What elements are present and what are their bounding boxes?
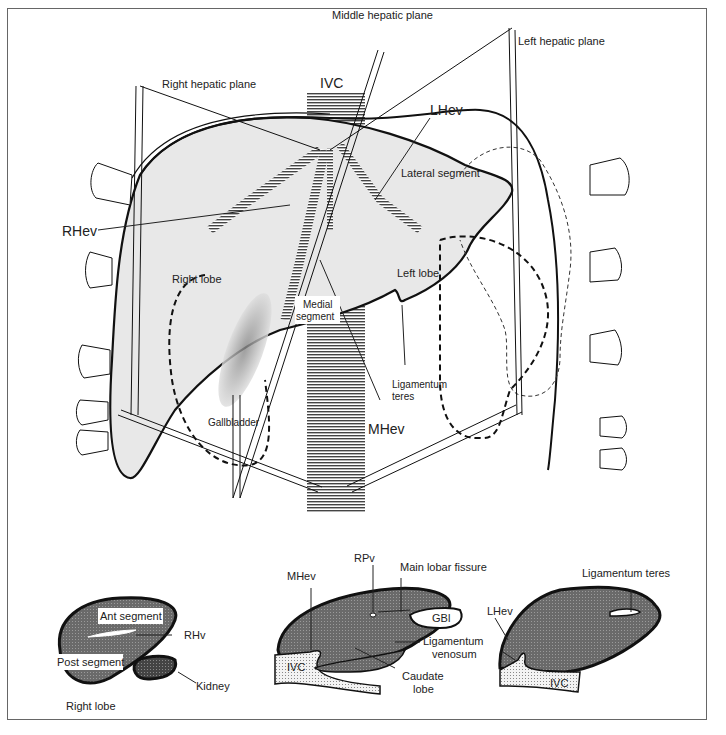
label-gbl: GBl bbox=[432, 612, 450, 624]
label-rhev: RHev bbox=[62, 223, 97, 239]
label-caudate: Caudate bbox=[402, 670, 444, 682]
label-right-lobe-caption: Right lobe bbox=[66, 700, 116, 712]
label-lateral-segment: Lateral segment bbox=[401, 167, 480, 179]
label-ivc: IVC bbox=[320, 75, 343, 91]
label-gallbladder: Gallbladder bbox=[208, 417, 260, 428]
label-segment: segment bbox=[296, 311, 335, 322]
label-mhev-section: MHev bbox=[287, 570, 316, 582]
label-mhev: MHev bbox=[368, 421, 405, 437]
label-ivc-left: IVC bbox=[550, 677, 568, 689]
label-middle-hepatic-plane: Middle hepatic plane bbox=[332, 9, 433, 21]
label-ligamentum-venosum: Ligamentum bbox=[423, 635, 484, 647]
label-left-lobe: Left lobe bbox=[397, 267, 439, 279]
label-venosum: venosum bbox=[432, 648, 477, 660]
label-left-hepatic-plane: Left hepatic plane bbox=[518, 35, 605, 47]
label-teres: teres bbox=[392, 391, 414, 402]
label-rpv: RPv bbox=[354, 552, 375, 564]
label-kidney: Kidney bbox=[196, 680, 230, 692]
main-liver-view bbox=[76, 28, 629, 512]
label-ivc-middle: IVC bbox=[287, 661, 305, 673]
label-ligamentum-teres: Ligamentum bbox=[392, 379, 447, 390]
label-ant-segment: Ant segment bbox=[100, 610, 162, 622]
label-main-lobar-fissure: Main lobar fissure bbox=[400, 561, 487, 573]
label-ligamentum-teres-section: Ligamentum teres bbox=[582, 567, 671, 579]
label-lhev: LHev bbox=[430, 102, 463, 118]
label-lhev-section: LHev bbox=[487, 605, 513, 617]
label-post-segment: Post segment bbox=[57, 656, 124, 668]
label-right-lobe: Right lobe bbox=[172, 273, 222, 285]
label-caudate-lobe: lobe bbox=[413, 683, 434, 695]
section-left-lobe bbox=[495, 587, 660, 692]
label-right-hepatic-plane: Right hepatic plane bbox=[162, 78, 256, 90]
label-rhv: RHv bbox=[184, 629, 206, 641]
liver-anatomy-diagram: Middle hepatic plane Left hepatic plane … bbox=[0, 0, 726, 735]
ribs-right bbox=[590, 158, 629, 470]
label-medial: Medial bbox=[303, 299, 332, 310]
